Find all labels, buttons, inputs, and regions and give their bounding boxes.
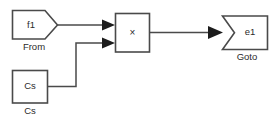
block-from[interactable]: f1 From [13, 11, 58, 53]
from-block-caption: From [23, 41, 45, 52]
constant-block-label: Cs [24, 80, 36, 91]
arrowhead-icon [102, 38, 115, 49]
from-block-shape [13, 11, 58, 40]
product-block-label: × [130, 27, 136, 38]
goto-block-caption: Goto [237, 51, 258, 62]
wire-from-to-product[interactable] [58, 20, 116, 31]
from-block-label: f1 [27, 19, 35, 30]
wire-segment [48, 43, 111, 87]
wire-product-to-goto[interactable] [150, 26, 223, 39]
block-diagram: f1 From × e1 Goto Cs Cs [0, 0, 274, 126]
arrowhead-icon [208, 26, 223, 39]
constant-block-caption: Cs [24, 105, 36, 116]
block-constant[interactable]: Cs Cs [13, 71, 48, 116]
arrowhead-icon [102, 20, 115, 31]
wire-constant-to-product[interactable] [48, 38, 116, 87]
block-product[interactable]: × [116, 14, 150, 53]
goto-block-label: e1 [245, 26, 256, 37]
diagram-canvas: f1 From × e1 Goto Cs Cs [0, 0, 274, 126]
block-goto[interactable]: e1 Goto [223, 16, 268, 62]
